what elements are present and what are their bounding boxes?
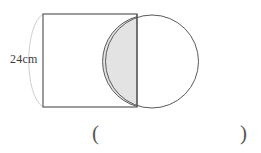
geometry-figure <box>0 0 261 153</box>
dimension-label-24cm: 24cm <box>10 52 37 66</box>
shaded-overlap-region <box>103 17 137 107</box>
answer-close-paren: ) <box>240 123 247 144</box>
figure-canvas: 24cm ( ) <box>0 0 261 153</box>
answer-open-paren: ( <box>92 123 99 144</box>
